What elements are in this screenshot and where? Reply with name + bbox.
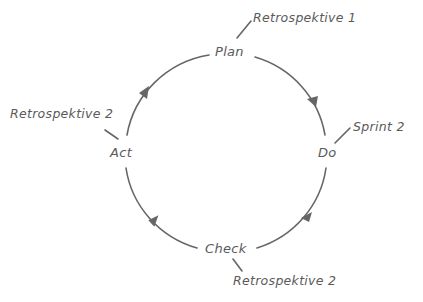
connector-plan-annotation xyxy=(237,21,251,38)
edge-do-check xyxy=(257,168,326,248)
annotation-check: Retrospektive 2 xyxy=(233,273,336,288)
connector-act-annotation xyxy=(105,130,118,139)
annotation-plan: Retrospektive 1 xyxy=(253,10,356,25)
edge-check-act xyxy=(126,168,197,248)
connector-check-annotation xyxy=(233,259,242,271)
connector-do-annotation xyxy=(335,128,350,143)
edge-plan-do xyxy=(255,57,325,135)
pdca-cycle-diagram xyxy=(0,0,423,302)
edge-act-plan xyxy=(127,55,209,135)
node-act: Act xyxy=(110,145,132,160)
node-plan: Plan xyxy=(215,44,244,59)
node-do: Do xyxy=(318,145,337,160)
node-check: Check xyxy=(205,241,247,256)
arrow-head-icon xyxy=(307,96,318,107)
annotation-act: Retrospektive 2 xyxy=(10,106,113,121)
arrow-head-icon xyxy=(148,215,161,228)
arrow-head-icon xyxy=(139,86,149,99)
annotation-do: Sprint 2 xyxy=(353,119,405,134)
